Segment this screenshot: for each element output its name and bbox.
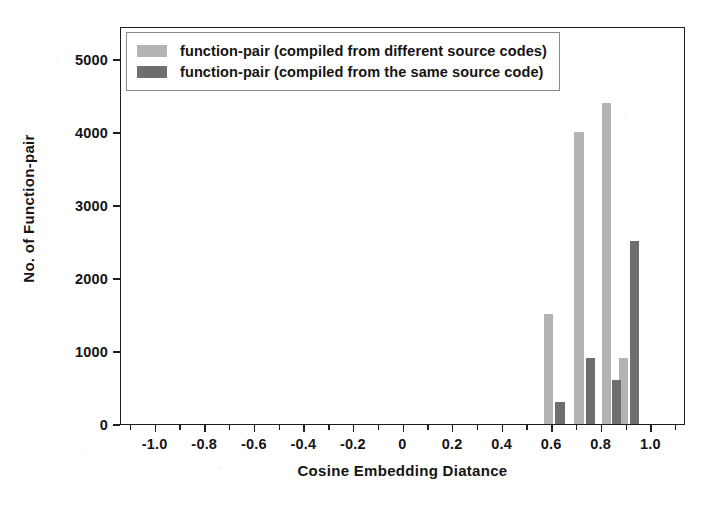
y-tick-label: 5000 [75, 52, 108, 68]
bar [555, 402, 564, 424]
x-tick-mark-minor [626, 425, 627, 430]
x-axis-title: Cosine Embedding Diatance [120, 462, 685, 479]
x-tick-label: -0.4 [290, 436, 316, 452]
y-axis-title: No. of Function-pair [20, 99, 37, 319]
x-tick-label: -0.6 [241, 436, 267, 452]
bar [544, 314, 553, 424]
legend-swatch-different-source [137, 45, 167, 57]
x-tick-mark-minor [229, 425, 230, 430]
x-tick-mark [303, 425, 304, 432]
x-tick-label: -0.2 [340, 436, 366, 452]
bar [612, 380, 621, 424]
x-tick-mark-minor [179, 425, 180, 430]
bar [574, 132, 583, 424]
x-tick-mark-minor [279, 425, 280, 430]
bar [602, 103, 611, 424]
y-tick-mark [113, 351, 120, 352]
legend-swatch-same-source [137, 66, 167, 78]
x-tick-label: 0.2 [442, 436, 463, 452]
histogram-figure: 010002000300040005000 No. of Function-pa… [0, 0, 711, 513]
y-axis-tick-labels: 010002000300040005000 [0, 0, 108, 513]
y-tick-mark [113, 424, 120, 425]
x-tick-label: 0 [398, 436, 406, 452]
x-tick-mark [502, 425, 503, 432]
x-tick-mark-minor [130, 425, 131, 430]
y-tick-mark [113, 205, 120, 206]
x-tick-mark [601, 425, 602, 432]
y-tick-mark [113, 132, 120, 133]
y-tick-label: 0 [100, 417, 108, 433]
x-tick-mark [254, 425, 255, 432]
x-tick-label: 0.6 [541, 436, 562, 452]
x-tick-mark [155, 425, 156, 432]
y-tick-label: 4000 [75, 125, 108, 141]
x-tick-label: 1.0 [640, 436, 661, 452]
x-tick-mark-minor [576, 425, 577, 430]
y-tick-mark [113, 278, 120, 279]
x-tick-mark-minor [526, 425, 527, 430]
legend: function-pair (compiled from different s… [126, 32, 560, 91]
y-tick-mark [113, 59, 120, 60]
x-tick-mark [204, 425, 205, 432]
y-tick-label: 3000 [75, 198, 108, 214]
x-tick-mark-minor [378, 425, 379, 430]
y-tick-label: 2000 [75, 271, 108, 287]
x-tick-label: -1.0 [142, 436, 168, 452]
bar [586, 358, 595, 424]
x-tick-mark [353, 425, 354, 432]
x-tick-mark-minor [675, 425, 676, 430]
x-tick-mark-minor [477, 425, 478, 430]
legend-item: function-pair (compiled from the same so… [137, 61, 547, 82]
x-tick-mark-minor [427, 425, 428, 430]
legend-label-same-source: function-pair (compiled from the same so… [180, 64, 544, 80]
x-tick-mark [650, 425, 651, 432]
legend-label-different-source: function-pair (compiled from different s… [180, 43, 547, 59]
y-tick-label: 1000 [75, 344, 108, 360]
x-tick-mark [403, 425, 404, 432]
x-tick-label: -0.8 [191, 436, 217, 452]
x-tick-label: 0.4 [491, 436, 512, 452]
bar [630, 241, 639, 424]
x-tick-mark-minor [328, 425, 329, 430]
x-tick-mark [551, 425, 552, 432]
legend-item: function-pair (compiled from different s… [137, 40, 547, 61]
x-tick-mark [452, 425, 453, 432]
x-tick-label: 0.8 [590, 436, 611, 452]
